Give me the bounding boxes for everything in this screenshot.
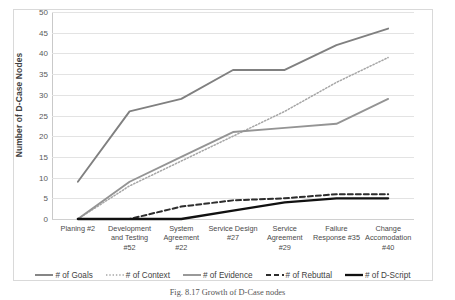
legend-label: # of D-Script [365, 271, 411, 280]
y-axis-tick-label: 30 [26, 90, 48, 99]
y-axis-tick-labels: 05101520253035404550 [26, 12, 48, 219]
chart-legend: # of Goals# of Context# of Evidence# of … [20, 268, 426, 282]
figure: Number of D-Case Nodes 05101520253035404… [0, 0, 455, 300]
x-axis-category-label: Service Agreement #29 [259, 224, 311, 264]
line-solid-icon [35, 271, 53, 279]
y-axis-tick-label: 45 [26, 28, 48, 37]
plot-area [52, 12, 414, 219]
x-axis-category-labels: Planing #2Development and Testing #52Sys… [52, 224, 414, 264]
y-axis-title: Number of D-Case Nodes [14, 20, 24, 190]
x-axis-category-label: Service Design #27 [207, 224, 259, 264]
x-axis-category-label: Planing #2 [52, 224, 104, 264]
legend-label: # of Evidence [203, 271, 253, 280]
x-axis-category-label: System Agreement #22 [155, 224, 207, 264]
legend-label: # of Goals [55, 271, 92, 280]
y-axis-tick-label: 40 [26, 49, 48, 58]
legend-item[interactable]: # of Rebuttal [266, 271, 332, 280]
y-axis-tick-label: 10 [26, 173, 48, 182]
y-axis-tick-label: 20 [26, 132, 48, 141]
line-solid-icon [183, 271, 201, 279]
legend-label: # of Rebuttal [286, 271, 332, 280]
y-axis-tick-label: 5 [26, 194, 48, 203]
line-dotted-icon [106, 271, 124, 279]
legend-label: # of Context [126, 271, 170, 280]
x-axis-category-label: Failure Response #35 [311, 224, 363, 264]
legend-item[interactable]: # of Evidence [183, 271, 253, 280]
legend-item[interactable]: # of Context [106, 271, 170, 280]
figure-caption: Fig. 8.17 Growth of D-Case nodes [0, 288, 455, 297]
line-dashed-icon [266, 271, 284, 279]
y-axis-tick-label: 35 [26, 70, 48, 79]
x-axis-category-label: Development and Testing #52 [104, 224, 156, 264]
line-chart-svg [52, 12, 414, 219]
series-line [78, 29, 388, 182]
line-solid-icon [345, 271, 363, 279]
legend-item[interactable]: # of Goals [35, 271, 92, 280]
legend-item[interactable]: # of D-Script [345, 271, 411, 280]
y-axis-tick-label: 50 [26, 8, 48, 17]
y-axis-tick-label: 25 [26, 111, 48, 120]
series-line [78, 198, 388, 219]
y-axis-tick-label: 15 [26, 152, 48, 161]
x-axis-category-label: Change Accomodation #40 [362, 224, 414, 264]
y-axis-tick-label: 0 [26, 215, 48, 224]
